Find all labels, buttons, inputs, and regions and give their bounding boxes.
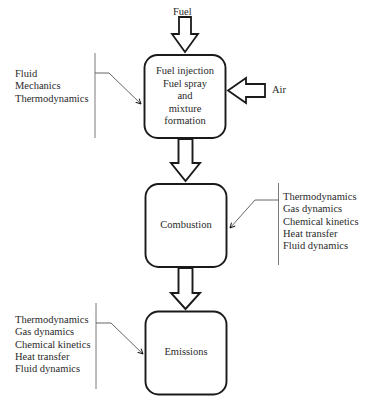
flow-arrow-combustion-to-emissions (171, 268, 200, 309)
discipline-item: Chemical kinetics (15, 339, 91, 351)
stage-line: Combustion (145, 219, 227, 232)
discipline-bracket-mixture (95, 53, 141, 138)
discipline-item: Gas dynamics (15, 326, 91, 338)
discipline-item: Fluid dynamics (283, 240, 359, 252)
discipline-item: Gas dynamics (283, 203, 359, 215)
stage-text-emissions: Emissions (145, 346, 227, 359)
discipline-list-mixture: Fluid Mechanics Thermodynamics (15, 68, 88, 105)
discipline-item: Heat transfer (283, 228, 359, 240)
flow-arrow-mixture-to-combustion (171, 139, 200, 181)
discipline-item: Mechanics (15, 80, 88, 92)
discipline-item: Thermodynamics (283, 191, 359, 203)
fuel-label: Fuel (173, 6, 192, 18)
discipline-item: Chemical kinetics (283, 216, 359, 228)
discipline-list-combustion: Thermodynamics Gas dynamics Chemical kin… (283, 191, 359, 252)
discipline-item: Fluid (15, 68, 88, 80)
stage-line: Emissions (145, 346, 227, 359)
stage-line: and (144, 90, 226, 103)
discipline-item: Thermodynamics (15, 314, 91, 326)
stage-line: Fuel spray (144, 78, 226, 91)
air-input-arrow (228, 78, 265, 103)
discipline-item: Thermodynamics (15, 93, 88, 105)
stage-line: mixture (144, 103, 226, 116)
stage-line: Fuel injection (144, 65, 226, 78)
fuel-input-arrow (172, 17, 198, 52)
discipline-item: Fluid dynamics (15, 363, 91, 375)
stage-text-mixture-formation: Fuel injection Fuel spray and mixture fo… (144, 65, 226, 128)
stage-text-combustion: Combustion (145, 219, 227, 232)
discipline-item: Heat transfer (15, 351, 91, 363)
discipline-bracket-emissions (96, 303, 143, 389)
discipline-list-emissions: Thermodynamics Gas dynamics Chemical kin… (15, 314, 91, 375)
discipline-bracket-combustion (230, 183, 279, 265)
stage-line: formation (144, 115, 226, 128)
air-label: Air (272, 84, 286, 96)
